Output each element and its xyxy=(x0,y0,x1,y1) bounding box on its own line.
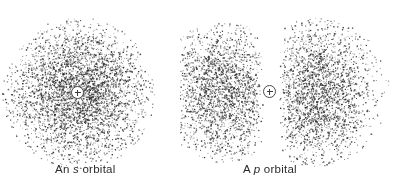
p-caption-suffix: orbital xyxy=(260,163,297,175)
s-orbital-electron-cloud xyxy=(0,0,180,185)
s-caption-suffix: orbital xyxy=(79,163,116,175)
s-orbital-nucleus-marker xyxy=(71,86,84,99)
p-orbital-nucleus-marker xyxy=(263,85,276,98)
p-orbital-caption: A p orbital xyxy=(243,163,297,175)
p-orbital-electron-cloud xyxy=(180,0,395,185)
s-caption-prefix: An xyxy=(55,163,73,175)
p-caption-prefix: A xyxy=(243,163,254,175)
orbital-figure: An s orbital A p orbital xyxy=(0,0,395,185)
s-orbital-panel: An s orbital xyxy=(0,0,180,185)
s-orbital-caption: An s orbital xyxy=(55,163,116,175)
p-orbital-panel: A p orbital xyxy=(180,0,395,185)
